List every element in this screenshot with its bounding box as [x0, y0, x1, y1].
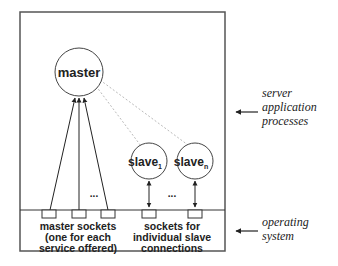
svg-text:slave1: slave1 — [128, 155, 162, 170]
master-socket-1 — [42, 210, 56, 218]
server-structure-diagram: master slave1 slaven ... ... master sock… — [0, 0, 338, 266]
master-label: master — [58, 65, 101, 80]
spawn-dotted-line-n — [100, 80, 188, 145]
operating-system-caption: operating system — [262, 215, 309, 243]
svg-text:operating: operating — [262, 215, 309, 229]
master-sockets-caption: master sockets (one for each service off… — [39, 220, 117, 254]
svg-text:application: application — [262, 100, 317, 114]
slave-socket-n — [188, 210, 202, 218]
slave-socket-1 — [142, 210, 156, 218]
slave-n-label: slave — [174, 155, 204, 169]
master-socket-arrow-1 — [50, 98, 75, 210]
svg-text:server: server — [262, 86, 292, 100]
slave-sockets-ellipsis: ... — [168, 188, 177, 199]
svg-text:system: system — [262, 229, 294, 243]
slave-1-subscript: 1 — [158, 163, 162, 170]
master-sockets-ellipsis: ... — [90, 188, 99, 199]
slave-n-process-node: slaven — [174, 143, 213, 179]
slave-n-subscript: n — [204, 163, 208, 170]
svg-text:connections: connections — [141, 242, 203, 254]
spawn-dotted-line-1 — [96, 86, 141, 146]
svg-text:service offered): service offered) — [39, 242, 117, 254]
slave-1-process-node: slave1 — [128, 143, 167, 179]
slave-sockets-caption: sockets for individual slave connections — [133, 220, 211, 254]
svg-text:processes: processes — [261, 114, 309, 128]
master-socket-2 — [72, 210, 86, 218]
server-processes-caption: server application processes — [261, 86, 317, 128]
master-socket-3 — [101, 210, 115, 218]
slave-1-label: slave — [128, 155, 158, 169]
master-process-node: master — [55, 48, 103, 96]
svg-text:slaven: slaven — [174, 155, 208, 170]
